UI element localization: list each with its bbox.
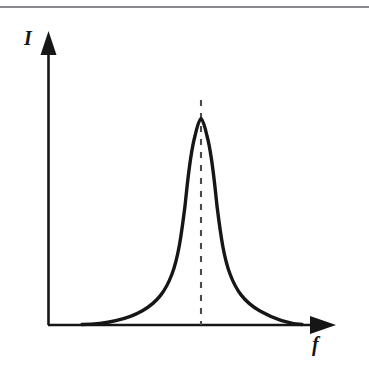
x-axis-label: f: [312, 334, 319, 354]
resonance-curve: [82, 119, 302, 325]
up-arrowhead-icon: [41, 31, 57, 55]
right-arrowhead-icon: [310, 316, 336, 334]
figure-container: I f: [0, 0, 369, 370]
resonance-plot: [0, 0, 369, 370]
y-axis-label: I: [24, 28, 32, 48]
